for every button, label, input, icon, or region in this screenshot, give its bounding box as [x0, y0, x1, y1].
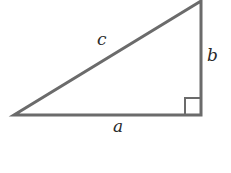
right-triangle: [14, 1, 201, 115]
right-angle-marker: [185, 98, 201, 115]
vertical-leg-label: b: [207, 47, 218, 64]
horizontal-leg-label: a: [113, 118, 123, 135]
right-triangle-diagram: [0, 0, 231, 173]
hypotenuse-label: c: [97, 31, 107, 48]
